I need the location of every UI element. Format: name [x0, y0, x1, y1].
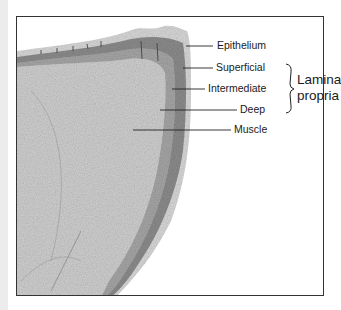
label-intermediate: Intermediate [208, 83, 266, 94]
label-superficial: Superficial [216, 62, 265, 73]
lamina-propria-line2: propria [297, 88, 341, 104]
lamina-propria-brace-icon [286, 64, 294, 113]
label-muscle: Muscle [234, 124, 267, 135]
label-epithelium: Epithelium [217, 40, 266, 51]
lamina-propria-line1: Lamina [297, 72, 341, 88]
lamina-propria-label: Lamina propria [297, 72, 341, 104]
label-deep: Deep [240, 104, 265, 115]
